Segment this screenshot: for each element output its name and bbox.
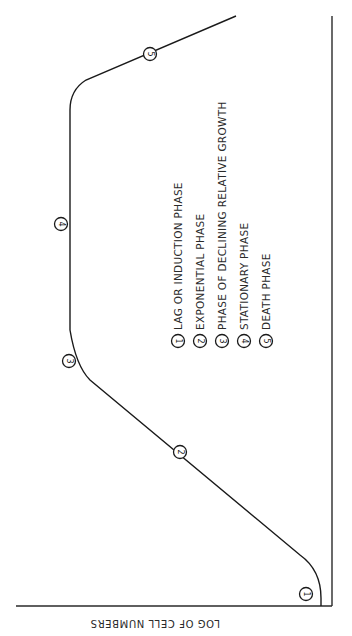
curve-marker-2: 2 <box>174 446 187 459</box>
legend-label: PHASE OF DECLINING RELATIVE GROWTH <box>216 101 228 330</box>
legend-marker-number: 1 <box>174 338 183 343</box>
marker-number: 3 <box>65 358 74 363</box>
legend-label: EXPONENTIAL PHASE <box>194 214 206 330</box>
legend-item-1: 1 LAG OR INDUCTION PHASE <box>172 182 185 347</box>
marker-number: 2 <box>176 449 185 454</box>
legend-marker-number: 2 <box>196 338 205 343</box>
legend-label: LAG OR INDUCTION PHASE <box>172 182 184 330</box>
marker-number: 5 <box>146 51 155 56</box>
curve-marker-4: 4 <box>55 218 68 231</box>
growth-curve-diagram: 1 2 3 4 5 1 LAG OR INDUCTION PHASE 2 EXP… <box>0 0 352 636</box>
legend-marker-number: 4 <box>240 338 249 343</box>
legend-item-3: 3 PHASE OF DECLINING RELATIVE GROWTH <box>216 101 229 347</box>
curve-marker-1: 1 <box>300 588 313 601</box>
legend-label: DEATH PHASE <box>260 253 272 330</box>
legend-item-5: 5 DEATH PHASE <box>260 253 273 347</box>
marker-number: 4 <box>57 221 66 226</box>
curve-marker-5: 5 <box>144 48 157 61</box>
legend-marker-number: 5 <box>262 338 271 343</box>
legend-marker-number: 3 <box>218 338 227 343</box>
legend-item-2: 2 EXPONENTIAL PHASE <box>194 214 207 348</box>
axis-label-log-cell-numbers: LOG OF CELL NUMBERS <box>90 618 220 629</box>
marker-number: 1 <box>302 591 311 596</box>
legend-label: STATIONARY PHASE <box>238 223 250 330</box>
legend: 1 LAG OR INDUCTION PHASE 2 EXPONENTIAL P… <box>172 101 273 347</box>
legend-item-4: 4 STATIONARY PHASE <box>238 223 251 348</box>
curve-marker-3: 3 <box>63 355 76 368</box>
